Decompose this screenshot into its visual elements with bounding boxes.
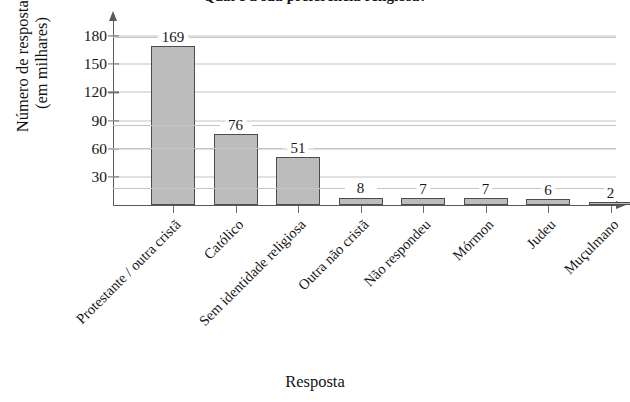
y-tick-mark	[108, 64, 119, 65]
bar-value-label: 7	[479, 182, 493, 197]
x-tick-mark	[611, 206, 612, 213]
bar	[151, 46, 195, 205]
y-axis-title: Número de respostas (em milhares)	[9, 0, 55, 158]
y-tick-mark	[108, 176, 119, 177]
bar-value-label: 76	[225, 118, 246, 133]
y-axis-title-line-2: (em milhares)	[32, 17, 51, 109]
y-axis-title-line-1: Número de respostas	[13, 0, 32, 132]
y-tick-mark	[108, 120, 119, 121]
value-leader-line	[189, 37, 616, 38]
bar-value-label: 6	[541, 183, 555, 198]
bar-value-label: 8	[354, 181, 368, 196]
value-leader-line	[113, 125, 220, 126]
y-axis-arrowhead	[109, 11, 117, 21]
bar	[276, 157, 320, 205]
value-leader-line	[252, 125, 617, 126]
x-tick-mark	[423, 206, 424, 213]
x-tick-mark	[548, 206, 549, 213]
x-tick-mark	[298, 206, 299, 213]
x-axis-title: Resposta	[0, 372, 630, 392]
x-tick-mark	[361, 206, 362, 213]
plot-area: 306090120150180 169765187762	[113, 20, 630, 206]
chart-title: Qual é a sua preferência religiosa?	[0, 0, 630, 5]
bar-value-label: 2	[604, 186, 618, 201]
y-tick-label: 60	[92, 139, 108, 157]
bar	[401, 198, 445, 205]
chart-figure: Qual é a sua preferência religiosa? Núme…	[0, 0, 630, 402]
y-tick-label: 150	[84, 55, 107, 73]
y-tick-label: 90	[92, 111, 108, 129]
y-tick-label: 180	[84, 27, 107, 45]
bar	[339, 198, 383, 206]
bar	[589, 202, 630, 205]
bar-value-label: 51	[288, 141, 309, 156]
y-tick-label: 30	[92, 167, 108, 185]
value-leader-line	[314, 148, 616, 149]
value-leader-line	[377, 188, 617, 189]
bar-value-label: 7	[416, 182, 430, 197]
bar	[526, 199, 570, 205]
x-tick-mark	[236, 206, 237, 213]
value-leader-line	[113, 37, 157, 38]
y-tick-mark	[108, 92, 119, 93]
value-leader-line	[113, 188, 345, 189]
x-tick-mark	[486, 206, 487, 213]
value-leader-line	[113, 148, 282, 149]
bar-value-label: 169	[159, 30, 188, 45]
x-axis-line	[113, 205, 617, 206]
bar	[464, 198, 508, 205]
y-tick-label: 120	[84, 83, 107, 101]
bar	[214, 134, 258, 205]
y-axis-line	[113, 20, 114, 206]
x-tick-mark	[173, 206, 174, 213]
